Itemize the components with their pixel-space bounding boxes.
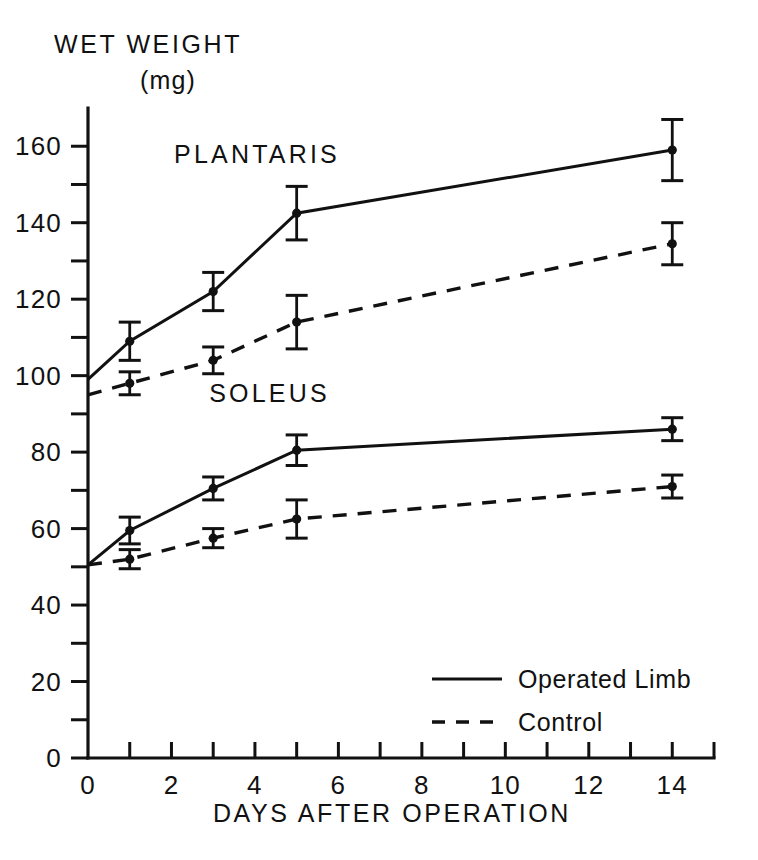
series-annotations: PLANTARISSOLEUS <box>174 140 340 407</box>
annotation-plantaris: PLANTARIS <box>174 140 340 168</box>
wet-weight-line-chart: WET WEIGHT (mg) DAYS AFTER OPERATION 020… <box>0 0 758 860</box>
y-axis-ticks: 020406080100120140160 <box>15 131 88 773</box>
legend-label-operated-limb: Operated Limb <box>518 665 691 693</box>
data-point-marker <box>668 425 677 434</box>
x-tick-label: 0 <box>80 770 96 800</box>
series-line-solid <box>88 150 672 379</box>
data-point-marker <box>125 555 134 564</box>
data-point-marker <box>209 534 218 543</box>
x-tick-label: 10 <box>490 770 521 800</box>
annotation-soleus: SOLEUS <box>209 379 330 407</box>
x-tick-label: 12 <box>573 770 604 800</box>
data-point-marker <box>209 484 218 493</box>
y-tick-label: 20 <box>31 667 62 697</box>
figure-container: WET WEIGHT (mg) DAYS AFTER OPERATION 020… <box>0 0 758 860</box>
series-line-solid <box>88 429 672 565</box>
data-point-marker <box>292 446 301 455</box>
x-tick-label: 2 <box>164 770 180 800</box>
x-tick-label: 6 <box>331 770 347 800</box>
data-point-marker <box>125 526 134 535</box>
x-tick-label: 8 <box>414 770 430 800</box>
x-axis-ticks: 02468101214 <box>80 742 714 800</box>
y-tick-label: 160 <box>15 131 62 161</box>
chart-legend: Operated LimbControl <box>432 665 691 736</box>
series-soleus-operated-limb <box>88 418 683 565</box>
data-point-marker <box>668 482 677 491</box>
data-point-marker <box>292 209 301 218</box>
series-plantaris-control <box>88 223 683 395</box>
data-point-marker <box>209 287 218 296</box>
x-tick-label: 14 <box>657 770 688 800</box>
y-tick-label: 140 <box>15 208 62 238</box>
series-soleus-control <box>88 475 683 569</box>
y-tick-label: 100 <box>15 361 62 391</box>
series-line-dashed <box>88 244 672 395</box>
data-point-marker <box>125 379 134 388</box>
y-tick-label: 80 <box>31 437 62 467</box>
data-point-marker <box>292 514 301 523</box>
data-point-marker <box>125 337 134 346</box>
y-axis-unit: (mg) <box>140 66 196 94</box>
data-point-marker <box>209 356 218 365</box>
data-point-marker <box>668 145 677 154</box>
y-tick-label: 0 <box>46 743 62 773</box>
data-point-marker <box>668 239 677 248</box>
x-axis-title: DAYS AFTER OPERATION <box>213 799 571 827</box>
y-tick-label: 40 <box>31 590 62 620</box>
data-series-layer <box>88 119 683 568</box>
y-tick-label: 60 <box>31 514 62 544</box>
x-tick-label: 4 <box>247 770 263 800</box>
data-point-marker <box>292 318 301 327</box>
y-tick-label: 120 <box>15 284 62 314</box>
series-line-dashed <box>88 487 672 565</box>
legend-label-control: Control <box>518 708 603 736</box>
y-axis-title: WET WEIGHT <box>54 30 242 58</box>
